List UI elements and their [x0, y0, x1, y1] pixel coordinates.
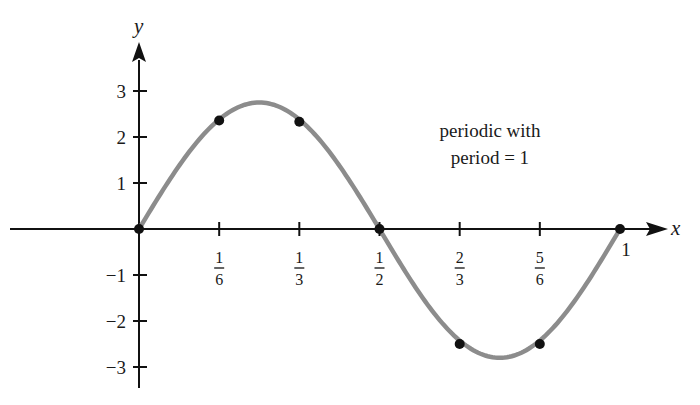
data-point	[455, 339, 465, 349]
period-annotation: periodic with period = 1	[410, 117, 570, 171]
data-point	[134, 224, 144, 234]
y-tick-label: 2	[117, 127, 127, 148]
data-point	[294, 117, 304, 127]
x-tick-numerator: 5	[536, 249, 544, 266]
y-axis-label: y	[132, 14, 144, 38]
y-tick-label: −1	[106, 265, 126, 286]
x-tick-numerator: 1	[376, 249, 384, 266]
y-axis-arrow-icon	[132, 42, 146, 62]
x-tick-label: 1	[621, 239, 631, 260]
x-tick-denominator: 3	[456, 271, 464, 288]
x-tick-numerator: 1	[215, 249, 223, 266]
x-axis-label: x	[670, 216, 681, 240]
data-point	[615, 224, 625, 234]
axes	[10, 42, 668, 388]
x-tick-numerator: 1	[295, 249, 303, 266]
x-axis-ticks: 16131223561	[214, 222, 631, 288]
x-tick-denominator: 2	[376, 271, 384, 288]
annotation-line-1: periodic with	[410, 117, 570, 144]
data-point	[214, 115, 224, 125]
x-tick-denominator: 3	[295, 271, 303, 288]
y-tick-label: −3	[106, 357, 126, 378]
chart-plot: 16131223561 321−1−2−3 x y	[0, 0, 700, 405]
x-tick-numerator: 2	[456, 249, 464, 266]
y-tick-label: −2	[106, 311, 126, 332]
x-tick-denominator: 6	[536, 271, 544, 288]
y-tick-label: 3	[117, 81, 127, 102]
y-tick-label: 1	[117, 173, 127, 194]
x-tick-denominator: 6	[215, 271, 223, 288]
data-point	[535, 339, 545, 349]
annotation-line-2: period = 1	[410, 144, 570, 171]
